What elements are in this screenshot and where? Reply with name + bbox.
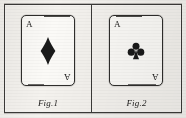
card-rank-index-top-left: A: [114, 20, 121, 29]
figure-panel-2: A A Fig.2: [92, 5, 181, 112]
card-edge-ink-top: [44, 15, 70, 17]
figure-plate: A A Fig.1 A: [0, 0, 186, 118]
card-rank-index-top-left: A: [26, 20, 33, 29]
club-pip-icon: [127, 42, 145, 60]
card-edge-ink-bottom: [28, 84, 44, 86]
card-rank-index-bottom-right: A: [152, 72, 159, 81]
card-edge-ink-bottom: [128, 84, 156, 86]
figure-caption-2: Fig.2: [92, 98, 181, 108]
card-rank-index-bottom-right: A: [64, 72, 71, 81]
figure-panel-1: A A Fig.1: [5, 5, 91, 112]
card-edge-ink-top: [116, 15, 142, 17]
scan-artifact-bottom: [4, 113, 182, 114]
playing-card-ace-of-clubs: A A: [109, 15, 163, 86]
diamond-pip-icon: [40, 37, 56, 65]
playing-card-ace-of-diamonds: A A: [21, 15, 75, 86]
figure-caption-1: Fig.1: [5, 98, 91, 108]
